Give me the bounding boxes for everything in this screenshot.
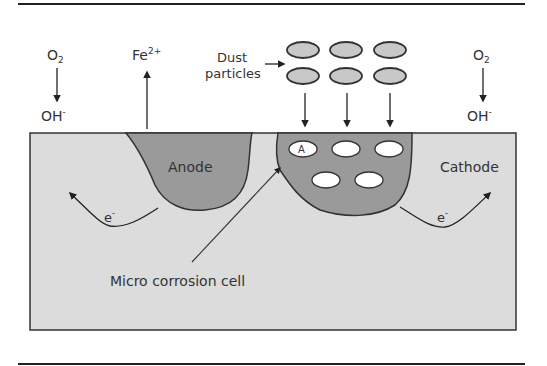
embedded-particle	[375, 141, 403, 157]
oh-right-label: OH-	[467, 107, 492, 124]
particle-a-label: A	[298, 144, 305, 155]
o2-right-label: O2	[473, 47, 490, 65]
embedded-particle	[355, 172, 383, 188]
fe-ion-label: Fe2+	[132, 46, 161, 63]
corrosion-diagram: O2 OH- Fe2+ Dust particles O2 OH- Anode …	[0, 0, 547, 366]
dust-particles-group	[287, 42, 406, 84]
micro-cell-label: Micro corrosion cell	[110, 273, 245, 289]
dust-label-line2: particles	[205, 66, 261, 81]
cathode-label: Cathode	[440, 159, 499, 175]
o2-left-label: O2	[47, 47, 64, 65]
embedded-particle	[332, 141, 360, 157]
anode-label: Anode	[168, 159, 213, 175]
embedded-particle	[312, 172, 340, 188]
oh-left-label: OH-	[41, 107, 66, 124]
dust-label-line1: Dust	[217, 50, 247, 65]
